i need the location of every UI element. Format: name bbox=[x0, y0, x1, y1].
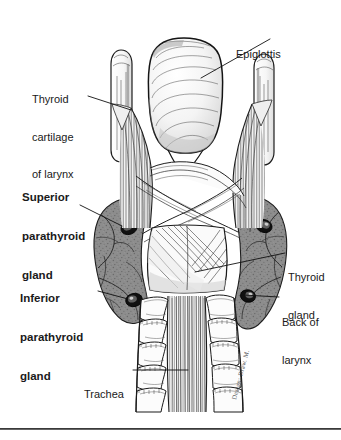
label-inferior-parathyroid-line-1: parathyroid bbox=[20, 331, 83, 344]
anatomy-figure: Design: Draw. M. Epiglottis Thyroid cart… bbox=[0, 0, 341, 440]
label-inferior-parathyroid-line-0: Inferior bbox=[20, 292, 83, 305]
label-epiglottis: Epiglottis bbox=[236, 23, 281, 86]
label-thyroid-cartilage-line-1: cartilage bbox=[32, 131, 74, 144]
label-inferior-parathyroid-line-2: gland bbox=[20, 370, 83, 383]
label-trachea: Trachea bbox=[84, 363, 124, 426]
trachea bbox=[136, 295, 243, 412]
label-inferior-parathyroid-gland: Inferior parathyroid gland bbox=[20, 266, 83, 409]
label-back-of-larynx-line-1: larynx bbox=[282, 354, 319, 367]
back-of-larynx-plate bbox=[146, 225, 228, 296]
label-thyroid-cartilage-line-0: Thyroid bbox=[32, 93, 74, 106]
label-thyroid-gland-line-0: Thyroid bbox=[288, 271, 325, 284]
label-trachea-line-0: Trachea bbox=[84, 388, 124, 401]
label-back-of-larynx: Back of larynx bbox=[282, 291, 319, 391]
tracheal-rings-left bbox=[136, 297, 168, 412]
bottom-divider-rule bbox=[0, 428, 341, 430]
label-epiglottis-line-0: Epiglottis bbox=[236, 48, 281, 61]
label-superior-parathyroid-line-1: parathyroid bbox=[22, 230, 85, 243]
label-superior-parathyroid-line-0: Superior bbox=[22, 191, 85, 204]
label-back-of-larynx-line-0: Back of bbox=[282, 316, 319, 329]
